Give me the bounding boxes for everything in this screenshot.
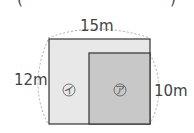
region-b-mark: イ — [64, 85, 74, 96]
close-paren: ) — [170, 0, 176, 8]
height-label: 12m — [14, 71, 48, 89]
area-diagram: ( ) 15m 12m 10m イ ア — [0, 0, 194, 133]
inner-height-label: 10m — [154, 82, 188, 100]
width-label: 15m — [80, 17, 114, 35]
open-paren: ( — [17, 0, 23, 8]
region-a-mark: ア — [115, 85, 125, 96]
